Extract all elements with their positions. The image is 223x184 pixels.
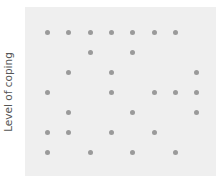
- data-point: [194, 90, 199, 95]
- data-point: [109, 70, 114, 75]
- data-point: [194, 70, 199, 75]
- data-point: [173, 90, 178, 95]
- data-point: [194, 110, 199, 115]
- data-point: [88, 30, 93, 35]
- data-point: [173, 30, 178, 35]
- data-point: [152, 30, 157, 35]
- data-point: [45, 130, 50, 135]
- data-point: [88, 50, 93, 55]
- data-point: [109, 130, 114, 135]
- data-point: [173, 150, 178, 155]
- data-point: [45, 90, 50, 95]
- data-point: [109, 90, 114, 95]
- data-point: [130, 110, 135, 115]
- data-point: [45, 30, 50, 35]
- data-point: [152, 130, 157, 135]
- y-axis-label: Level of coping: [1, 42, 15, 142]
- data-point: [109, 30, 114, 35]
- data-point: [45, 150, 50, 155]
- data-point: [152, 90, 157, 95]
- plot-area: [25, 7, 216, 176]
- data-point: [88, 150, 93, 155]
